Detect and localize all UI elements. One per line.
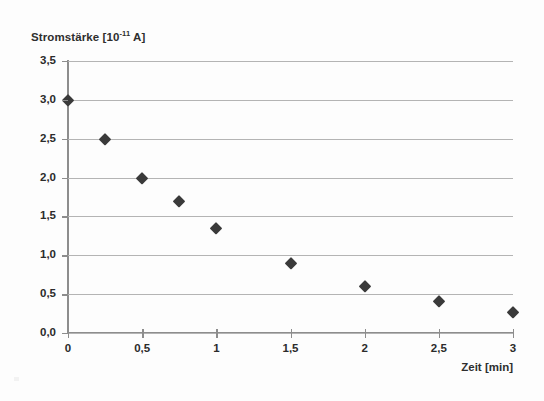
y-axis-tick <box>62 139 68 140</box>
y-axis-tick-label: 0,0 <box>14 326 56 338</box>
y-axis-tick-label: 2,0 <box>14 171 56 183</box>
gridline <box>68 294 513 295</box>
x-axis-tick <box>68 329 69 338</box>
data-point <box>359 280 371 292</box>
x-axis-tick-label: 1 <box>213 342 219 354</box>
chart-page: Stromstärke [10-11 A] Zeit [min] 0,00,51… <box>0 0 544 401</box>
y-axis-tick <box>62 178 68 179</box>
y-axis-title-suffix: A] <box>130 31 145 43</box>
x-axis-tick-label: 0,5 <box>134 342 150 354</box>
x-axis-tick-label: 0 <box>65 342 71 354</box>
gridline <box>68 61 513 62</box>
x-axis-tick <box>439 329 440 338</box>
data-point <box>507 306 519 318</box>
x-axis-title: Zeit [min] <box>461 361 513 373</box>
x-axis-tick <box>216 329 217 338</box>
x-axis-tick-label: 2,5 <box>431 342 447 354</box>
y-axis-tick-label: 2,5 <box>14 132 56 144</box>
data-point <box>136 172 148 184</box>
y-axis-tick-label: 1,5 <box>14 209 56 221</box>
gridline <box>68 100 513 101</box>
scan-artifact <box>14 377 19 381</box>
x-axis-tick <box>365 329 366 338</box>
x-axis-tick <box>513 329 514 338</box>
y-axis-tick <box>62 61 68 62</box>
y-axis-tick-label: 1,0 <box>14 248 56 260</box>
y-axis-tick <box>62 294 68 295</box>
y-axis-tick <box>62 216 68 217</box>
gridline <box>68 216 513 217</box>
gridline <box>68 139 513 140</box>
y-axis-title-base: Stromstärke [10 <box>31 31 119 43</box>
x-axis-tick <box>291 329 292 338</box>
y-axis-title-exponent: -11 <box>119 29 130 38</box>
data-point <box>173 195 185 207</box>
data-point <box>210 222 222 234</box>
x-axis-tick-label: 3 <box>510 342 516 354</box>
x-axis-tick-label: 1,5 <box>283 342 299 354</box>
data-point <box>284 257 296 269</box>
y-axis-tick <box>62 255 68 256</box>
y-axis-title: Stromstärke [10-11 A] <box>31 31 145 43</box>
y-axis-tick-label: 3,0 <box>14 93 56 105</box>
x-axis-tick-label: 2 <box>361 342 367 354</box>
data-point <box>99 133 111 145</box>
plot-area <box>68 61 513 333</box>
y-axis-tick <box>62 100 68 101</box>
x-axis-tick <box>142 329 143 338</box>
y-axis-tick-label: 0,5 <box>14 287 56 299</box>
data-point <box>433 295 445 307</box>
y-axis-tick-label: 3,5 <box>14 54 56 66</box>
